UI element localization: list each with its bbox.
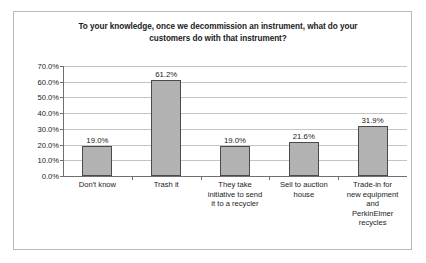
y-axis-tick-label: 40.0% xyxy=(37,109,59,118)
bar-value-label: 19.0% xyxy=(86,136,108,145)
chart-frame: To your knowledge, once we decommission … xyxy=(13,11,412,250)
bar-value-label: 21.6% xyxy=(293,132,315,141)
chart-title-line-2: customers do with that instrument? xyxy=(58,33,378,45)
category-label-line: Trade-in for xyxy=(332,180,413,190)
y-axis-tick-label: 30.0% xyxy=(37,124,59,133)
category-label-line: recycles xyxy=(332,218,413,228)
category-label-line: it to a recycler xyxy=(195,199,276,209)
chart-title-line-1: To your knowledge, once we decommission … xyxy=(58,21,378,33)
bar-value-label: 61.2% xyxy=(155,70,177,79)
y-axis-tick-label: 50.0% xyxy=(37,93,59,102)
bar-slot: 31.9% xyxy=(338,66,407,176)
x-axis-category-label: Trade-in fornew equipmentandPerkinElmerr… xyxy=(332,180,413,228)
y-axis-tick-label: 10.0% xyxy=(37,156,59,165)
bar-slot: 61.2% xyxy=(132,66,201,176)
bar[interactable]: 19.0% xyxy=(220,146,250,176)
bar-slot: 19.0% xyxy=(201,66,270,176)
x-axis-line xyxy=(63,176,407,177)
bar[interactable]: 21.6% xyxy=(289,142,319,176)
bar[interactable]: 61.2% xyxy=(151,80,181,176)
bar[interactable]: 31.9% xyxy=(358,126,388,176)
bar[interactable]: 19.0% xyxy=(82,146,112,176)
bar-value-label: 19.0% xyxy=(224,136,246,145)
y-axis-tick-label: 20.0% xyxy=(37,140,59,149)
category-label-line: PerkinElmer xyxy=(332,209,413,219)
chart-title: To your knowledge, once we decommission … xyxy=(58,21,378,44)
category-label-line: new equipment xyxy=(332,190,413,200)
bar-slot: 19.0% xyxy=(63,66,132,176)
plot-area: 0.0%10.0%20.0%30.0%40.0%50.0%60.0%70.0% … xyxy=(63,66,407,176)
y-axis-tick-label: 60.0% xyxy=(37,77,59,86)
bar-slot: 21.6% xyxy=(269,66,338,176)
y-axis-tick-label: 70.0% xyxy=(37,62,59,71)
bar-value-label: 31.9% xyxy=(362,116,384,125)
category-label-line: and xyxy=(332,199,413,209)
